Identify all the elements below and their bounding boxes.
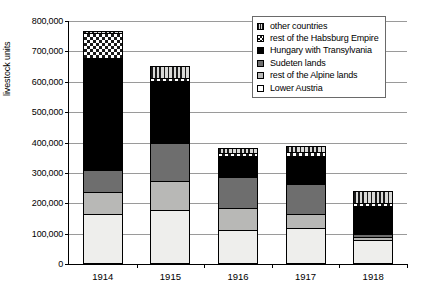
vertical-stripes-swatch — [257, 23, 264, 30]
y-axis-tick — [65, 82, 69, 83]
bar-1915[interactable] — [150, 21, 190, 264]
bar-segment[interactable] — [353, 234, 393, 237]
y-axis-tick-label: 100,000 — [32, 229, 63, 239]
y-axis-tick — [65, 51, 69, 52]
y-axis-tick — [65, 203, 69, 204]
bar-segment[interactable] — [150, 181, 190, 210]
legend-item-label: Hungary with Transylvania — [270, 46, 372, 55]
y-axis-tick-label: 0 — [58, 259, 63, 269]
bar-segment[interactable] — [150, 210, 190, 264]
y-axis-title: livestock units — [2, 41, 12, 96]
x-axis-category-label: 1914 — [92, 271, 113, 282]
legend-item[interactable]: other countries — [257, 20, 379, 32]
x-axis-category-label: 1916 — [227, 271, 248, 282]
y-axis-tick-label: 400,000 — [32, 138, 63, 148]
bar-segment[interactable] — [218, 177, 258, 207]
y-axis-tick — [65, 173, 69, 174]
legend-item[interactable]: Hungary with Transylvania — [257, 45, 379, 57]
solid-black-swatch — [257, 47, 264, 54]
bar-segment[interactable] — [150, 78, 190, 81]
light-gray-swatch — [257, 72, 264, 79]
y-axis-tick — [65, 143, 69, 144]
stacked-bar-chart: livestock units 800,000700,000600,000500… — [0, 0, 424, 294]
bar-segment[interactable] — [150, 143, 190, 181]
y-axis-tick — [65, 264, 69, 265]
bar-segment[interactable] — [83, 192, 123, 214]
x-axis-tick — [339, 264, 340, 268]
bar-segment[interactable] — [286, 146, 326, 152]
bar-segment[interactable] — [218, 148, 258, 153]
x-axis-tick — [407, 264, 408, 268]
bar-segment[interactable] — [83, 31, 123, 33]
bar-segment[interactable] — [286, 152, 326, 156]
white-swatch — [257, 85, 264, 92]
x-axis-tick — [272, 264, 273, 268]
bar-segment[interactable] — [218, 153, 258, 156]
bar-1914[interactable] — [83, 21, 123, 264]
legend-item-label: rest of the Alpine lands — [270, 71, 357, 80]
bar-segment[interactable] — [286, 228, 326, 264]
bar-segment[interactable] — [353, 240, 393, 264]
bar-segment[interactable] — [218, 156, 258, 178]
bar-segment[interactable] — [353, 203, 393, 207]
y-axis-tick-label: 800,000 — [32, 16, 63, 26]
legend-item[interactable]: rest of the Habsburg Empire — [257, 32, 379, 44]
bar-segment[interactable] — [83, 170, 123, 192]
bar-segment[interactable] — [286, 156, 326, 184]
checkerboard-swatch — [257, 35, 264, 42]
legend-item-label: rest of the Habsburg Empire — [270, 34, 379, 43]
legend-item-label: other countries — [270, 22, 327, 31]
y-axis-tick-label: 300,000 — [32, 168, 63, 178]
x-axis-category-label: 1915 — [160, 271, 181, 282]
x-axis-tick — [137, 264, 138, 268]
bar-segment[interactable] — [286, 184, 326, 214]
chart-legend: other countriesrest of the Habsburg Empi… — [252, 16, 386, 98]
y-axis-tick — [65, 21, 69, 22]
legend-item[interactable]: Sudeten lands — [257, 57, 379, 69]
y-axis-tick — [65, 234, 69, 235]
bar-segment[interactable] — [83, 33, 123, 59]
bar-segment[interactable] — [353, 191, 393, 203]
legend-item-label: Lower Austria — [270, 84, 323, 93]
bar-segment[interactable] — [218, 208, 258, 230]
bar-segment[interactable] — [150, 66, 190, 78]
legend-item-label: Sudeten lands — [270, 59, 326, 68]
x-axis-tick — [204, 264, 205, 268]
bar-segment[interactable] — [353, 206, 393, 233]
bar-segment[interactable] — [353, 237, 393, 240]
y-axis-tick-label: 200,000 — [32, 198, 63, 208]
bar-segment[interactable] — [286, 214, 326, 228]
x-axis-category-label: 1917 — [295, 271, 316, 282]
bar-segment[interactable] — [83, 58, 123, 170]
bar-segment[interactable] — [150, 81, 190, 143]
legend-item[interactable]: rest of the Alpine lands — [257, 70, 379, 82]
y-axis-tick-label: 700,000 — [32, 46, 63, 56]
legend-item[interactable]: Lower Austria — [257, 82, 379, 94]
y-axis-tick-label: 500,000 — [32, 107, 63, 117]
bar-segment[interactable] — [83, 214, 123, 264]
dark-gray-swatch — [257, 60, 264, 67]
y-axis-tick-label: 600,000 — [32, 77, 63, 87]
y-axis-tick — [65, 112, 69, 113]
x-axis-category-label: 1918 — [363, 271, 384, 282]
bar-segment[interactable] — [218, 230, 258, 264]
